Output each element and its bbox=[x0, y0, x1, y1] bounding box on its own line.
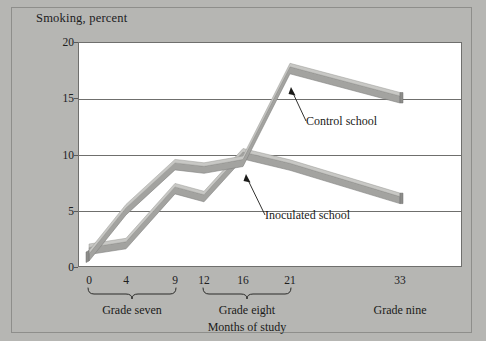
group-label-grade-seven: Grade seven bbox=[102, 303, 162, 318]
annotation-control-school: Control school bbox=[306, 114, 377, 129]
x-tick-label: 21 bbox=[284, 274, 296, 286]
x-tick-label: 0 bbox=[86, 274, 92, 286]
x-tick-label: 9 bbox=[172, 274, 178, 286]
y-axis-title: Smoking, percent bbox=[36, 11, 127, 26]
smoking-percent-line-chart: Smoking, percent 20 15 10 5 0 bbox=[0, 0, 486, 341]
y-tick-label: 0 bbox=[46, 261, 74, 273]
gridline-10 bbox=[79, 155, 461, 156]
bracket-grade-seven bbox=[88, 288, 176, 299]
annotation-inoculated-school: Inoculated school bbox=[265, 208, 350, 223]
group-brackets bbox=[88, 288, 291, 299]
x-axis-title: Months of study bbox=[208, 320, 287, 335]
bracket-grade-eight bbox=[203, 288, 291, 299]
x-tick-label: 16 bbox=[237, 274, 249, 286]
x-tick-label: 4 bbox=[123, 274, 129, 286]
y-tick-label: 20 bbox=[46, 36, 74, 48]
gridline-15 bbox=[79, 99, 461, 100]
y-tick-label: 15 bbox=[46, 92, 74, 104]
x-tick-label: 12 bbox=[198, 274, 210, 286]
y-tick-label: 10 bbox=[46, 149, 74, 161]
group-label-grade-eight: Grade eight bbox=[219, 303, 275, 318]
group-label-grade-nine: Grade nine bbox=[374, 303, 427, 318]
plot-area bbox=[78, 42, 462, 267]
y-tick-mark bbox=[74, 267, 78, 268]
x-tick-label: 33 bbox=[394, 274, 406, 286]
y-tick-label: 5 bbox=[46, 205, 74, 217]
